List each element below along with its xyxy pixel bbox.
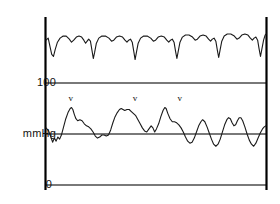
trace-group (46, 34, 266, 146)
gridlines (45, 83, 267, 185)
v-wave-marker-1: v (69, 93, 74, 103)
v-wave-marker-group: vvv (69, 93, 183, 103)
axes (46, 17, 267, 190)
y-tick-label-0: 0 (46, 178, 52, 190)
v-wave-marker-2: v (133, 93, 138, 103)
upper-trace-path (46, 34, 266, 60)
lower-trace-path (46, 107, 266, 146)
pressure-waveform-figure: vvv 100 mmHg 0 (0, 0, 280, 204)
y-axis-unit-label: mmHg (23, 127, 56, 139)
waveform-plot: vvv (0, 0, 280, 204)
v-wave-marker-3: v (178, 93, 183, 103)
y-tick-label-100: 100 (37, 76, 56, 88)
